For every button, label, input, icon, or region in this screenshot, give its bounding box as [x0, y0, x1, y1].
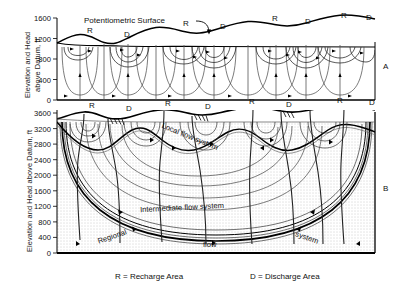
panel-b-marker-d-1: D [126, 104, 132, 113]
panel-a-label: A [383, 62, 388, 71]
potentiometric-surface-label: Potentiometric Surface [84, 16, 165, 25]
panel-a-marker-d-4: D [366, 13, 372, 22]
panel-b-marker-d-4: D [369, 98, 375, 107]
panel-a-ticks [53, 18, 57, 100]
panel-a-marker-d-3: D [305, 17, 311, 26]
panel-a-marker-r-3: R [272, 14, 278, 23]
panel-b-ytick-2800: 2800 [25, 140, 51, 149]
regional-flow-label-word2: flow [203, 240, 217, 249]
panel-a-ytick-1600: 1600 [25, 14, 51, 23]
panel-b-ytick-1600: 1600 [25, 187, 51, 196]
panel-b-marker-r-4: R [337, 96, 343, 105]
panel-a-marker-r-2: R [183, 19, 189, 28]
panel-a-marker-d-1: D [124, 30, 130, 39]
panel-b-ytick-1200: 1200 [25, 202, 51, 211]
legend-recharge: R = Recharge Area [115, 272, 183, 281]
panel-b-marker-r-3: R [249, 97, 255, 106]
panel-b-ytick-800: 800 [25, 218, 51, 227]
panel-a-ytick-1200: 1200 [25, 35, 51, 44]
panel-b-ytick-3200: 3200 [25, 125, 51, 134]
panel-a [53, 15, 375, 100]
panel-a-marker-r-1: R [87, 26, 93, 35]
panel-b-marker-d-2: D [205, 102, 211, 111]
panel-b-ytick-2400: 2400 [25, 156, 51, 165]
potentiometric-surface-line-b [57, 105, 375, 119]
panel-a-flowcells [62, 44, 375, 100]
panel-b-ticks [53, 113, 57, 253]
panel-a-marker-r-4: R [341, 11, 347, 20]
panel-b-label: B [383, 184, 388, 193]
panel-b [53, 105, 375, 253]
water-table-line-b [57, 119, 375, 122]
panel-b-ytick-0: 0 [25, 249, 51, 258]
panel-b-marker-r-1: R [89, 101, 95, 110]
panel-b-ytick-2000: 2000 [25, 171, 51, 180]
panel-b-marker-d-3: D [286, 100, 292, 109]
panel-b-marker-r-2: R [165, 99, 171, 108]
panel-a-ytick-800: 800 [25, 55, 51, 64]
panel-b-ytick-400: 400 [25, 233, 51, 242]
panel-a-marker-d-2: D [220, 22, 226, 31]
panel-b-ytick-3600: 3600 [25, 109, 51, 118]
panel-a-ytick-0: 0 [25, 96, 51, 105]
water-table-line-a [57, 43, 375, 47]
legend-discharge: D = Discharge Area [250, 272, 320, 281]
panel-a-ytick-400: 400 [25, 76, 51, 85]
